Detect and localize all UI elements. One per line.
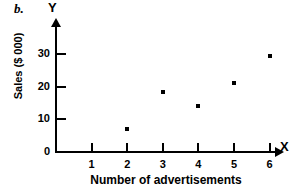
x-axis-tick	[162, 143, 164, 152]
scatter-plot-figure: b. Y X Sales ($ 000) Number of advertise…	[0, 0, 290, 193]
x-axis-tick-label: 1	[82, 158, 102, 170]
x-axis-tick-label: 3	[153, 158, 173, 170]
y-axis-tick	[57, 86, 66, 88]
y-axis-tick-label: 10	[24, 113, 50, 124]
data-point	[268, 54, 272, 58]
y-axis-tick	[57, 118, 66, 120]
x-axis-tick	[233, 143, 235, 152]
x-axis-tick	[126, 143, 128, 152]
data-point	[196, 104, 200, 108]
y-axis-tick-label-wrap: 30	[24, 48, 50, 59]
data-point	[232, 81, 236, 85]
y-axis-tick-label: 30	[24, 48, 50, 59]
plot-area: 0102030123456	[0, 0, 290, 193]
y-axis-tick-label-wrap: 0	[24, 146, 50, 157]
data-point	[161, 90, 165, 94]
data-point	[125, 127, 129, 131]
y-axis-tick-label-wrap: 10	[24, 113, 50, 124]
x-axis-tick	[91, 143, 93, 152]
x-axis-tick	[269, 143, 271, 152]
x-axis-tick-label: 4	[188, 158, 208, 170]
x-axis-tick	[197, 143, 199, 152]
x-axis-tick-label: 2	[117, 158, 137, 170]
y-axis-tick-label: 0	[24, 146, 50, 157]
y-axis-tick-label-wrap: 20	[24, 81, 50, 92]
y-axis-tick	[57, 53, 66, 55]
x-axis-tick-label: 5	[224, 158, 244, 170]
x-axis-tick-label: 6	[260, 158, 280, 170]
y-axis-tick-label: 20	[24, 81, 50, 92]
